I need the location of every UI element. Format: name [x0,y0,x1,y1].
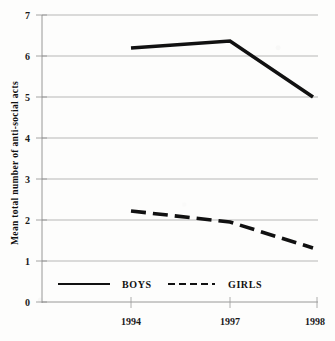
y-tick-label-2: 2 [25,215,30,226]
y-tick-label-1: 1 [25,256,30,267]
series-line-girls [131,211,313,248]
y-tick-label-6: 6 [25,51,30,62]
x-tick-label-1997: 1997 [220,316,240,327]
chart-page: 7 6 5 4 3 2 1 0 Mean total number of ant… [0,0,335,341]
line-chart: 7 6 5 4 3 2 1 0 Mean total number of ant… [0,0,335,341]
x-tick-label-1998: 1998 [305,316,325,327]
y-tick-label-5: 5 [25,92,30,103]
y-tick-label-7: 7 [25,10,30,21]
legend-label-girls: GIRLS [228,279,262,290]
legend-item-girls: GIRLS [168,279,262,290]
legend-item-boys: BOYS [58,279,152,290]
y-tick-label-4: 4 [25,133,30,144]
gridlines [42,15,318,261]
y-axis-title: Mean total number of anti-social acts [10,81,20,245]
x-tick-marks [131,297,317,308]
series-line-boys [131,41,313,97]
y-tick-marks [36,15,47,302]
y-tick-label-0: 0 [25,297,30,308]
chart-legend: BOYS GIRLS [58,279,262,290]
x-tick-label-1994: 1994 [121,316,141,327]
y-tick-label-3: 3 [25,174,30,185]
legend-label-boys: BOYS [122,279,152,290]
